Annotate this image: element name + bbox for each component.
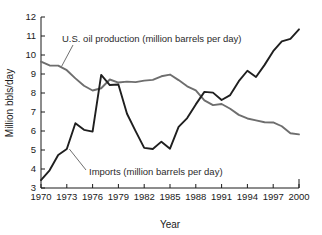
- series-line-imports: [41, 29, 299, 180]
- data-series-group: [41, 29, 299, 180]
- y-tick-label: 6: [31, 125, 36, 136]
- y-axis-title: Million bbls/day: [4, 69, 15, 137]
- y-tick-label: 9: [31, 68, 36, 79]
- x-tick-label: 1985: [159, 191, 180, 202]
- imports-series-label: Imports (million barrels per day): [89, 166, 223, 177]
- chart-canvas: 1211109876543 19701973197619791982198519…: [0, 0, 322, 235]
- production-label-leader-line: [62, 45, 73, 66]
- x-tick-label: 1979: [108, 191, 129, 202]
- y-tick-label: 8: [31, 87, 36, 98]
- imports-label-leader-line: [69, 149, 86, 170]
- production-series-label: U.S. oil production (million barrels per…: [62, 33, 242, 44]
- x-tick-label: 1973: [56, 191, 77, 202]
- x-tick-label: 1970: [30, 191, 51, 202]
- oil-production-imports-chart: 1211109876543 19701973197619791982198519…: [0, 0, 322, 235]
- y-tick-label: 4: [31, 163, 36, 174]
- x-tick-label: 1994: [237, 191, 258, 202]
- y-tick-label: 12: [25, 11, 36, 22]
- x-tick-label: 1976: [82, 191, 103, 202]
- x-tick-label: 1988: [185, 191, 206, 202]
- x-tick-label: 1982: [134, 191, 155, 202]
- y-tick-label: 11: [26, 30, 36, 41]
- y-tick-label: 5: [31, 144, 36, 155]
- y-axis-tick-marks: [41, 17, 45, 188]
- y-tick-label: 7: [31, 106, 36, 117]
- x-tick-label: 1997: [263, 191, 284, 202]
- x-axis-tick-marks: [41, 184, 299, 188]
- x-tick-label: 1991: [211, 191, 232, 202]
- y-tick-label: 10: [25, 49, 36, 60]
- x-axis-tick-labels: 1970197319761979198219851988199119941997…: [30, 191, 309, 202]
- y-axis-tick-labels: 1211109876543: [25, 11, 36, 193]
- x-axis-title: Year: [160, 219, 181, 230]
- x-tick-label: 2000: [288, 191, 309, 202]
